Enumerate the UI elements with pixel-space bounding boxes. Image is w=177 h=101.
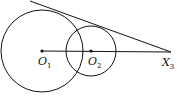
point-o2 — [89, 49, 92, 52]
point-o1 — [40, 49, 43, 52]
label-o1: O1 — [38, 56, 52, 70]
label-o2: O2 — [88, 56, 102, 70]
label-x3: X3 — [162, 57, 174, 71]
center-line — [42, 51, 171, 52]
geometry-diagram — [0, 0, 177, 101]
tangent-line — [30, 1, 171, 52]
